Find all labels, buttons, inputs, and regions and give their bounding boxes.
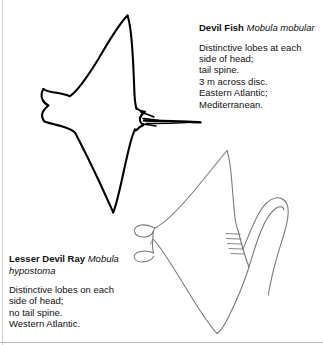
lesser-devil-ray-illustration <box>134 151 288 334</box>
common-name: Lesser Devil Ray <box>9 253 85 264</box>
description-lesser-devil-ray: Distinctive lobes on each side of head; … <box>9 284 137 330</box>
devil-fish-illustration <box>42 16 201 213</box>
species-name-lesser-devil-ray: Lesser Devil Ray Mobula hypostoma <box>9 253 137 276</box>
description-line: Eastern Atlantic; <box>199 87 317 98</box>
common-name: Devil Fish <box>199 22 244 33</box>
description-line: Mediterranean. <box>199 99 317 110</box>
species-epithet: hypostoma <box>9 265 55 276</box>
description-devil-fish: Distinctive lobes at each side of head; … <box>199 42 317 110</box>
description-line: side of head; <box>199 53 317 64</box>
description-line: Distinctive lobes on each <box>9 284 137 295</box>
genus-name: Mobula <box>247 22 278 33</box>
caption-devil-fish: Devil Fish Mobula mobular Distinctive lo… <box>199 22 317 110</box>
caption-lesser-devil-ray: Lesser Devil Ray Mobula hypostoma Distin… <box>9 253 137 330</box>
description-line: Distinctive lobes at each <box>199 42 317 53</box>
species-name-devil-fish: Devil Fish Mobula mobular <box>199 22 317 34</box>
description-line: tail spine. <box>199 64 317 75</box>
field-guide-page: Devil Fish Mobula mobular Distinctive lo… <box>0 0 323 345</box>
description-line: Western Atlantic. <box>9 318 137 329</box>
species-epithet: mobular <box>280 22 314 33</box>
description-line: 3 m across disc. <box>199 76 317 87</box>
description-line: side of head; <box>9 295 137 306</box>
genus-name: Mobula <box>88 253 119 264</box>
description-line: no tail spine. <box>9 307 137 318</box>
